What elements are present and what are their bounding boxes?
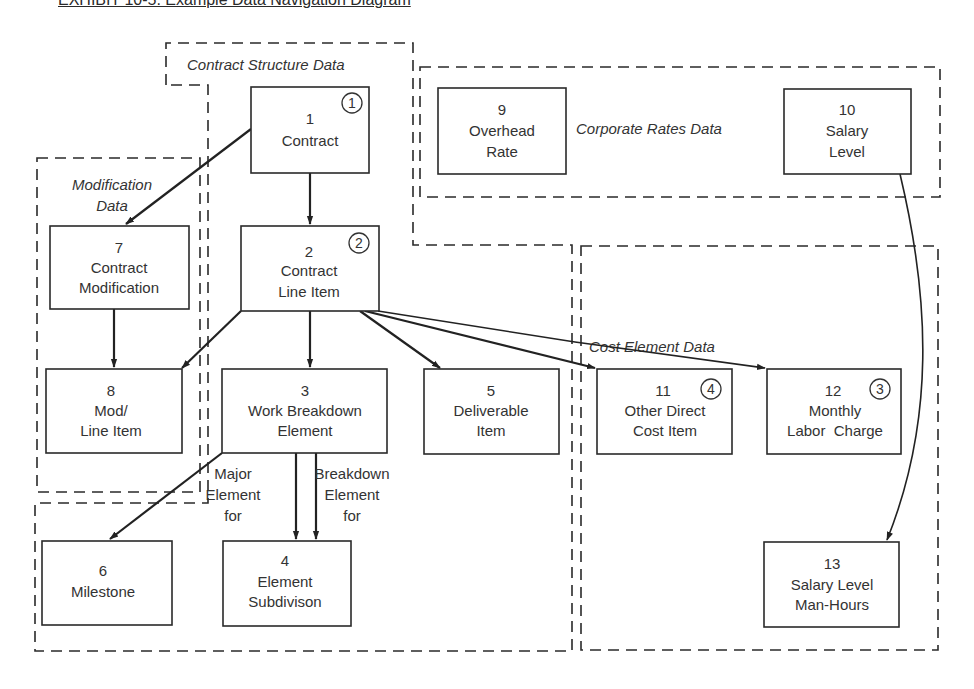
- rel-label-major-3: for: [224, 507, 242, 524]
- entity-number: 10: [839, 101, 856, 118]
- entity-4-element-subdivision[interactable]: 4 Element Subdivison: [223, 541, 351, 626]
- entity-6-milestone[interactable]: 6 Milestone: [42, 541, 172, 625]
- entity-label-1: Overhead: [469, 122, 535, 139]
- step-number: 2: [355, 235, 363, 251]
- entity-3-work-breakdown-element[interactable]: 3 Work Breakdown Element: [222, 369, 387, 453]
- entity-7-contract-modification[interactable]: 7 Contract Modification: [50, 226, 189, 309]
- rel-label-breakdown-3: for: [343, 507, 361, 524]
- edge-2-to-8: [182, 311, 241, 368]
- entity-label: Contract: [282, 132, 340, 149]
- entity-9-overhead-rate[interactable]: 9 Overhead Rate: [438, 88, 566, 174]
- entity-number: 6: [99, 562, 107, 579]
- entity-label: Milestone: [71, 583, 135, 600]
- entity-label-1: Contract: [281, 262, 339, 279]
- entity-label-1: Contract: [91, 259, 149, 276]
- entity-label-1: Salary Level: [791, 576, 874, 593]
- step-number: 3: [876, 381, 884, 397]
- entity-label-2: Modification: [79, 279, 159, 296]
- step-number: 1: [348, 95, 356, 111]
- region-label-modification-1: Modification: [72, 176, 152, 193]
- entity-label-2: Item: [476, 422, 505, 439]
- rel-label-major-2: Element: [205, 486, 261, 503]
- region-label-corporate-rates: Corporate Rates Data: [576, 120, 722, 137]
- entity-12-monthly-labor-charge[interactable]: 12 Monthly Labor Charge 3: [767, 369, 901, 454]
- step-number: 4: [707, 381, 715, 397]
- rel-label-major-1: Major: [214, 465, 252, 482]
- entity-label-2: Rate: [486, 143, 518, 160]
- entity-label-2: Line Item: [278, 283, 340, 300]
- entity-number: 13: [824, 555, 841, 572]
- entity-number: 7: [115, 239, 123, 256]
- entity-label-1: Monthly: [809, 402, 862, 419]
- entity-label-1: Element: [257, 573, 313, 590]
- entity-number: 9: [498, 101, 506, 118]
- entity-label-2: Subdivison: [248, 593, 321, 610]
- entity-label-1: Mod/: [94, 402, 128, 419]
- region-label-modification-2: Data: [96, 197, 128, 214]
- entity-label-1: Salary: [826, 122, 869, 139]
- entity-number: 8: [107, 382, 115, 399]
- entity-8-mod-line-item[interactable]: 8 Mod/ Line Item: [46, 369, 182, 453]
- region-label-contract-structure: Contract Structure Data: [187, 56, 345, 73]
- entity-5-deliverable-item[interactable]: 5 Deliverable Item: [424, 369, 559, 454]
- rel-label-breakdown-1: Breakdown: [314, 465, 389, 482]
- entity-2-contract-line-item[interactable]: 2 Contract Line Item 2: [241, 226, 379, 311]
- entity-label-2: Line Item: [80, 422, 142, 439]
- entity-label-1: Deliverable: [453, 402, 528, 419]
- entity-number: 4: [281, 552, 289, 569]
- entity-label-2: Labor Charge: [787, 422, 883, 439]
- entity-label-1: Other Direct: [625, 402, 707, 419]
- entity-label-1: Work Breakdown: [248, 402, 362, 419]
- entity-number: 5: [487, 382, 495, 399]
- entity-number: 12: [825, 382, 842, 399]
- edge-10-to-13: [887, 174, 923, 540]
- entity-number: 2: [305, 243, 313, 260]
- entity-label-2: Man-Hours: [795, 596, 869, 613]
- entity-label-2: Element: [277, 422, 333, 439]
- entity-label-2: Level: [829, 143, 865, 160]
- entity-number: 11: [655, 382, 671, 399]
- entity-1-contract[interactable]: 1 Contract 1: [251, 87, 369, 173]
- entity-number: 3: [301, 382, 309, 399]
- entity-10-salary-level[interactable]: 10 Salary Level: [784, 89, 911, 174]
- entity-11-other-direct-cost-item[interactable]: 11 Other Direct Cost Item 4: [597, 369, 732, 454]
- rel-label-breakdown-2: Element: [324, 486, 380, 503]
- entity-number: 1: [306, 110, 314, 127]
- entity-label-2: Cost Item: [633, 422, 697, 439]
- navigation-diagram: Contract Structure Data Corporate Rates …: [0, 0, 974, 689]
- entity-13-salary-level-man-hours[interactable]: 13 Salary Level Man-Hours: [764, 542, 899, 627]
